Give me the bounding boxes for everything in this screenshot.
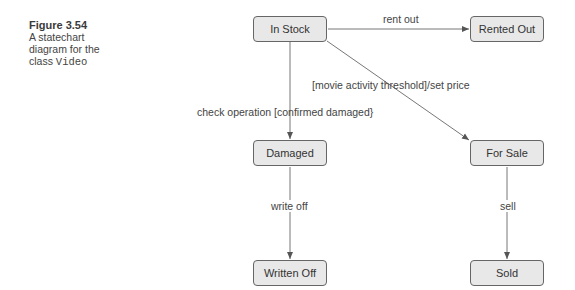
state-in-stock: In Stock bbox=[253, 16, 327, 42]
label-write-off: write off bbox=[270, 200, 309, 212]
label-sell: sell bbox=[499, 200, 517, 212]
label-set-price: [movie activity threshold]/set price bbox=[312, 79, 470, 91]
label-rent-out: rent out bbox=[383, 13, 419, 25]
state-damaged: Damaged bbox=[253, 140, 327, 166]
state-for-sale: For Sale bbox=[470, 140, 544, 166]
state-sold: Sold bbox=[470, 260, 544, 286]
state-written-off: Written Off bbox=[253, 260, 327, 286]
state-rented-out: Rented Out bbox=[470, 16, 544, 42]
label-check-operation: check operation [confirmed damaged} bbox=[197, 106, 373, 118]
